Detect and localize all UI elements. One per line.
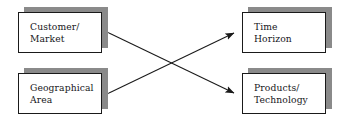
node-label-customer-market: Customer/ Market	[30, 21, 79, 45]
node-geographical-area[interactable]: Geographical Area	[18, 73, 102, 114]
node-label-products-technology: Products/ Technology	[254, 82, 308, 106]
node-products-technology[interactable]: Products/ Technology	[242, 73, 326, 114]
node-customer-market[interactable]: Customer/ Market	[18, 12, 102, 53]
node-label-time-horizon: Time Horizon	[254, 21, 292, 45]
diagram-canvas: Customer/ Market Time Horizon Geographic…	[0, 0, 341, 126]
node-time-horizon[interactable]: Time Horizon	[242, 12, 326, 53]
node-label-geographical-area: Geographical Area	[30, 82, 94, 106]
